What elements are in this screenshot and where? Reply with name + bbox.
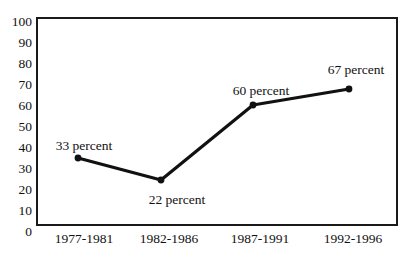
y-axis: 100 90 80 70 60 50 40 30 20 10 0	[0, 0, 32, 255]
y-tick-label-50: 50	[0, 120, 32, 134]
x-tick-label-1977-1981: 1977-1981	[55, 231, 114, 246]
x-tick-label-1982-1986: 1982-1986	[140, 231, 199, 246]
data-point-label-4: 67 percent	[328, 62, 385, 77]
x-axis: 1977-1981 1982-1986 1987-1991 1992-1996	[36, 231, 398, 251]
y-tick-label-100: 100	[0, 15, 32, 29]
y-tick-label-10: 10	[0, 204, 32, 218]
y-tick-label-90: 90	[0, 36, 32, 50]
y-tick-label-70: 70	[0, 78, 32, 92]
y-tick-label-80: 80	[0, 57, 32, 71]
x-tick-label-1987-1991: 1987-1991	[231, 231, 290, 246]
y-tick-label-30: 30	[0, 162, 32, 176]
y-tick-label-60: 60	[0, 99, 32, 113]
y-tick-label-0: 0	[0, 225, 32, 239]
plot-area	[36, 17, 398, 226]
y-tick-label-40: 40	[0, 141, 32, 155]
x-tick-label-1992-1996: 1992-1996	[324, 231, 383, 246]
y-tick-label-20: 20	[0, 183, 32, 197]
chart-figure: 100 90 80 70 60 50 40 30 20 10 0 33 perc…	[0, 0, 415, 255]
data-point-label-1: 33 percent	[56, 138, 113, 153]
data-point-label-2: 22 percent	[149, 192, 206, 207]
data-point-label-3: 60 percent	[233, 83, 290, 98]
